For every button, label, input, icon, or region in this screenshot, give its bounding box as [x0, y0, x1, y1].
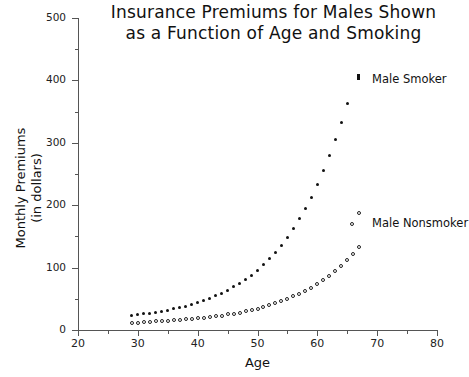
x-tick-major	[138, 331, 139, 336]
data-point	[316, 183, 319, 186]
plot-area	[78, 18, 437, 330]
x-tick-major	[198, 331, 199, 336]
data-point	[244, 278, 247, 281]
data-point	[346, 102, 349, 105]
x-tick-label: 50	[243, 337, 273, 350]
data-point	[196, 316, 200, 320]
data-point	[148, 312, 151, 315]
data-point	[226, 312, 230, 316]
data-point	[148, 320, 152, 324]
data-point	[321, 278, 325, 282]
x-tick-label: 60	[302, 337, 332, 350]
data-point	[172, 307, 175, 310]
data-point	[333, 269, 337, 273]
data-point	[256, 269, 259, 272]
data-point	[214, 314, 218, 318]
data-point	[310, 196, 313, 199]
y-axis-title-line-1: Monthly Premiums	[13, 93, 29, 283]
x-tick-label: 80	[422, 337, 452, 350]
data-point	[298, 217, 301, 220]
data-point	[130, 321, 134, 325]
data-point	[340, 121, 343, 124]
y-tick-label: 500	[26, 11, 66, 23]
data-point	[303, 289, 307, 293]
legend-marker-nonsmoker-icon-secondary	[350, 222, 354, 226]
data-point	[345, 258, 349, 262]
data-point	[291, 294, 295, 298]
x-tick-minor	[228, 331, 229, 334]
data-point	[285, 297, 289, 301]
data-point	[304, 207, 307, 210]
data-point	[166, 319, 170, 323]
data-point	[315, 282, 319, 286]
data-point	[178, 306, 181, 309]
data-point	[160, 310, 163, 313]
data-point	[232, 285, 235, 288]
data-point	[339, 264, 343, 268]
data-point	[351, 252, 355, 256]
data-point	[262, 263, 265, 266]
x-tick-major	[377, 331, 378, 336]
data-point	[172, 318, 176, 322]
data-point	[279, 299, 283, 303]
x-axis-title: Age	[78, 355, 437, 370]
y-tick-label: 0	[26, 323, 66, 335]
data-point	[357, 245, 361, 249]
data-point	[267, 303, 271, 307]
data-point	[274, 251, 277, 254]
data-point	[292, 227, 295, 230]
data-point	[178, 318, 182, 322]
data-point	[136, 321, 140, 325]
data-point	[190, 303, 193, 306]
data-point	[184, 317, 188, 321]
data-point	[334, 138, 337, 141]
data-point	[250, 308, 254, 312]
data-point	[160, 319, 164, 323]
data-point	[244, 309, 248, 313]
x-tick-label: 40	[183, 337, 213, 350]
chart-root: Insurance Premiums for Males Shown as a …	[0, 0, 469, 377]
data-point	[214, 294, 217, 297]
data-point	[268, 257, 271, 260]
x-tick-label: 20	[63, 337, 93, 350]
data-point	[220, 292, 223, 295]
data-point	[327, 274, 331, 278]
legend-label-nonsmoker: Male Nonsmoker	[372, 216, 468, 230]
data-point	[136, 313, 139, 316]
data-point	[238, 311, 242, 315]
x-tick-major	[78, 331, 79, 336]
data-point	[322, 169, 325, 172]
data-point	[190, 317, 194, 321]
data-point	[142, 320, 146, 324]
legend-marker-smoker-icon	[357, 74, 360, 80]
data-point	[196, 301, 199, 304]
data-point	[309, 286, 313, 290]
data-point	[226, 289, 229, 292]
x-tick-minor	[168, 331, 169, 334]
y-axis-title: Monthly Premiums (in dollars)	[13, 93, 45, 283]
data-point	[202, 316, 206, 320]
data-point	[208, 297, 211, 300]
x-tick-label: 30	[123, 337, 153, 350]
data-point	[256, 307, 260, 311]
data-point	[238, 282, 241, 285]
x-tick-minor	[407, 331, 408, 334]
data-point	[154, 319, 158, 323]
x-tick-minor	[287, 331, 288, 334]
data-point	[232, 312, 236, 316]
data-point	[154, 311, 157, 314]
x-tick-major	[317, 331, 318, 336]
x-tick-minor	[347, 331, 348, 334]
data-point	[202, 299, 205, 302]
x-tick-minor	[108, 331, 109, 334]
data-point	[130, 314, 133, 317]
x-tick-major	[437, 331, 438, 336]
y-axis-title-line-2: (in dollars)	[29, 93, 45, 283]
data-point	[184, 305, 187, 308]
data-point	[273, 301, 277, 305]
data-point	[297, 292, 301, 296]
y-tick-label: 400	[26, 73, 66, 85]
x-tick-label: 70	[362, 337, 392, 350]
data-point	[280, 244, 283, 247]
data-point	[286, 236, 289, 239]
